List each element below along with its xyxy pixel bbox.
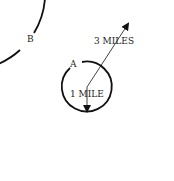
point-b-label: B (27, 34, 34, 44)
outer-radius-label: 3 MILES (94, 36, 134, 46)
inner-radius-label: 1 MILE (70, 89, 104, 99)
point-a-label: A (69, 59, 77, 69)
outer-radius-arrow (87, 24, 128, 87)
outer-circle (0, 0, 45, 70)
concentric-circles-diagram: B A 3 MILES 1 MILE (0, 0, 174, 181)
